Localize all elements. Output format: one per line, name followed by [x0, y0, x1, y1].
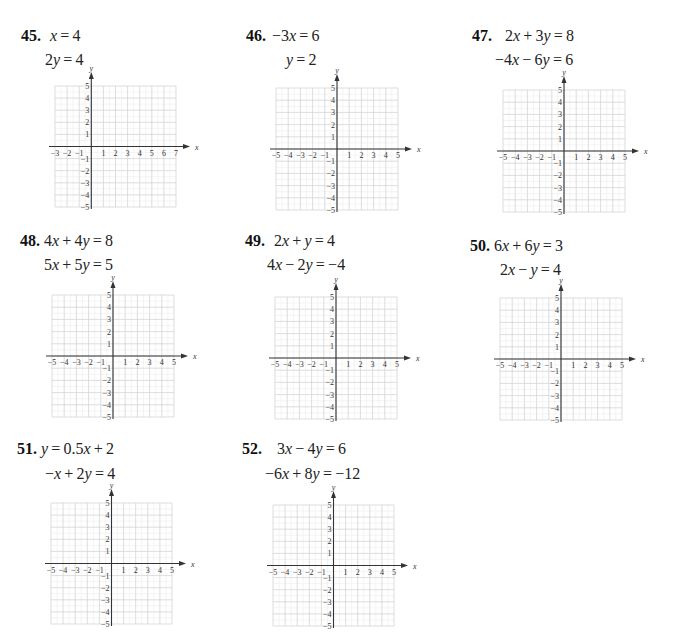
y-tick-label: −5 [81, 203, 90, 212]
y-tick-label: 1 [330, 342, 334, 351]
problem-number: 46. [246, 27, 266, 45]
y-arrow-icon [89, 72, 94, 79]
x-tick-label: 4 [160, 358, 164, 367]
y-tick-label: 4 [558, 98, 562, 107]
y-tick-label: −3 [101, 596, 110, 605]
x-tick-label: −4 [60, 358, 69, 367]
x-tick-label: −5 [48, 358, 57, 367]
x-tick-label: 1 [101, 149, 105, 158]
y-tick-label: 3 [106, 523, 110, 532]
y-tick-label: −3 [553, 184, 562, 193]
x-tick-label: 1 [346, 360, 350, 369]
problem-number: 52. [242, 440, 262, 458]
y-tick-label: −4 [101, 608, 110, 617]
x-tick-label: 3 [372, 151, 376, 160]
x-tick-label: 3 [368, 568, 372, 577]
x-tick-label: −2 [83, 566, 92, 575]
x-tick-label: 6 [162, 149, 166, 158]
problem-number: 51. [17, 440, 37, 458]
x-tick-label: −2 [63, 149, 72, 158]
y-tick-label: −1 [553, 159, 562, 168]
x-tick-label: 2 [358, 360, 362, 369]
x-axis-label: x [192, 352, 197, 361]
coordinate-grid[interactable]: xy−3−2−11234567−5−4−3−2−112345 [55, 86, 176, 207]
y-tick-label: −2 [323, 586, 332, 595]
y-tick-label: −1 [326, 157, 335, 166]
x-tick-label: 5 [150, 149, 154, 158]
x-tick-label: −2 [532, 361, 541, 370]
y-tick-label: −3 [326, 182, 335, 191]
y-tick-label: −1 [102, 364, 111, 373]
y-tick-label: −5 [326, 206, 335, 215]
y-tick-label: 2 [106, 535, 110, 544]
coordinate-grid[interactable]: xy−5−4−3−2−112345−5−4−3−2−112345 [273, 505, 394, 626]
x-tick-label: −3 [523, 153, 532, 162]
x-tick-label: 2 [359, 151, 363, 160]
y-axis-label: y [334, 66, 339, 75]
y-tick-label: −5 [325, 415, 334, 424]
x-tick-label: −4 [284, 151, 293, 160]
y-tick-label: 3 [328, 525, 332, 534]
x-tick-label: −3 [71, 566, 80, 575]
x-tick-label: 3 [599, 153, 603, 162]
y-arrow-icon [331, 491, 336, 498]
x-tick-label: 3 [146, 566, 150, 575]
y-tick-label: 5 [330, 293, 334, 302]
x-tick-label: 1 [122, 566, 126, 575]
x-tick-label: 5 [395, 360, 399, 369]
x-tick-label: −3 [51, 149, 60, 158]
x-tick-label: −5 [47, 566, 56, 575]
y-tick-label: −4 [323, 610, 332, 619]
x-tick-label: −3 [72, 358, 81, 367]
x-tick-label: −3 [520, 361, 529, 370]
coordinate-grid[interactable]: xy−5−4−3−2−112345−5−4−3−2−112345 [500, 298, 622, 420]
y-tick-label: −4 [553, 196, 562, 205]
y-arrow-icon [111, 281, 116, 288]
x-tick-label: −5 [496, 361, 505, 370]
equation-1: 4x + 4y = 8 [44, 232, 113, 250]
x-tick-label: 5 [396, 151, 400, 160]
y-tick-label: −5 [102, 413, 111, 422]
y-tick-label: −4 [102, 401, 111, 410]
y-arrow-icon [559, 284, 564, 291]
x-tick-label: −4 [59, 566, 68, 575]
problem-number: 47. [472, 27, 492, 45]
y-tick-label: −5 [101, 620, 110, 629]
y-tick-label: 2 [331, 121, 335, 130]
y-tick-label: 3 [555, 318, 559, 327]
x-tick-label: 4 [158, 566, 162, 575]
x-tick-label: 5 [170, 566, 174, 575]
y-tick-label: 1 [558, 135, 562, 144]
x-tick-label: −4 [511, 153, 520, 162]
y-tick-label: 3 [85, 106, 89, 115]
coordinate-grid[interactable]: xy−5−4−3−2−112345−5−4−3−2−112345 [276, 88, 398, 210]
x-tick-label: −5 [499, 153, 508, 162]
x-axis-label: x [194, 143, 199, 152]
x-axis-label: x [190, 560, 195, 569]
equation-2: 5x + 5y = 5 [44, 256, 113, 274]
y-tick-label: 3 [107, 315, 111, 324]
y-tick-label: 2 [558, 123, 562, 132]
coordinate-grid[interactable]: xy−5−4−3−2−112345−5−4−3−2−112345 [52, 295, 174, 417]
y-tick-label: 4 [330, 305, 334, 314]
y-axis-label: y [333, 275, 338, 284]
y-tick-label: −4 [325, 403, 334, 412]
equation-1: 6x + 6y = 3 [494, 237, 563, 255]
coordinate-grid[interactable]: xy−5−4−3−2−112345−5−4−3−2−112345 [275, 297, 397, 419]
problem-number: 48. [20, 232, 40, 250]
y-axis-label: y [109, 481, 114, 490]
y-tick-label: −3 [81, 179, 90, 188]
y-axis-label: y [110, 273, 115, 282]
x-tick-label: −5 [269, 568, 278, 577]
x-tick-label: 4 [383, 360, 387, 369]
x-tick-label: −4 [283, 360, 292, 369]
coordinate-grid[interactable]: xy−5−4−3−2−112345−5−4−3−2−112345 [51, 503, 172, 624]
y-tick-label: −2 [102, 376, 111, 385]
y-tick-label: 5 [106, 499, 110, 508]
coordinate-grid[interactable]: xy−5−4−3−2−112345−5−4−3−2−112345 [503, 90, 625, 212]
x-arrow-icon [629, 357, 636, 362]
problem-number: 49. [245, 232, 265, 250]
y-tick-label: −5 [553, 208, 562, 217]
x-tick-label: 4 [138, 149, 142, 158]
y-tick-label: −2 [326, 169, 335, 178]
